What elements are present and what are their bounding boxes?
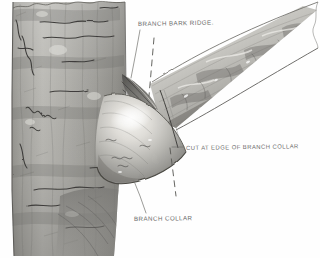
label-branch-collar: BRANCH COLLAR [134,214,193,222]
label-branch-bark-ridge: BRANCH BARK RIDGE. [138,19,214,27]
illustration-canvas: BRANCH BARK RIDGE. CUT AT EDGE OF BRANCH… [0,0,320,258]
